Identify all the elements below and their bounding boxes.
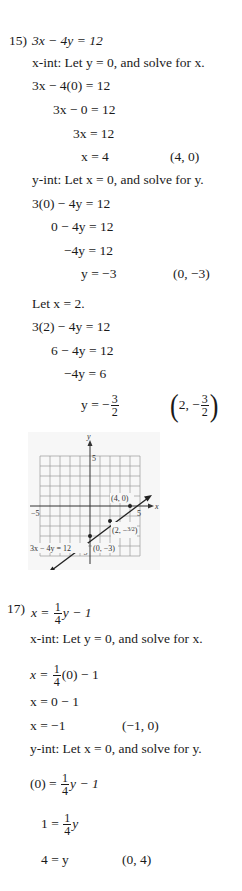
p17-xint-step-3: x = −1 (30, 718, 65, 734)
problem-17-number: 17) (7, 601, 25, 617)
p15-yint-point: (0, −3) (173, 266, 210, 282)
p17-xint-label: x-int: Let y = 0, and solve for x. (30, 631, 203, 647)
label-point-b: (2, −3/2) (112, 526, 138, 535)
problem-15-number: 15) (9, 33, 27, 49)
p17-xint-point: (−1, 0) (122, 718, 159, 734)
fraction: 32 (111, 393, 119, 418)
label-line-equation: 3x − 4y = 12 (30, 544, 71, 553)
p15-extra-result: y = −32 (81, 393, 120, 418)
fraction: 14 (61, 772, 69, 797)
p15-yint-step-4: y = −3 (81, 266, 116, 282)
p15-extra-step-3: −4y = 6 (64, 366, 106, 382)
p17-yint-step-2: 1 = 14y (41, 812, 78, 837)
p15-extra-point: (2, −32) (170, 393, 218, 418)
y-axis-label: y (86, 432, 91, 441)
p17-xint-step-2: x = 0 − 1 (30, 694, 79, 710)
p15-xint-step-3: 3x = 12 (73, 126, 114, 142)
fraction: 14 (53, 663, 61, 688)
problem-15-equation: 3x − 4y = 12 (32, 33, 103, 49)
p15-yint-step-1: 3(0) − 4y = 12 (32, 196, 110, 212)
fraction: 14 (63, 812, 71, 837)
tick-x-right: 5 (137, 509, 141, 518)
label-point-c: (0, −3) (93, 544, 115, 553)
p15-yint-step-2: 0 − 4y = 12 (51, 219, 113, 235)
x-axis-arrow-icon (148, 504, 154, 509)
fraction: 32 (201, 393, 209, 418)
p15-xint-step-4: x = 4 (81, 149, 109, 165)
p15-extra-step-2: 6 − 4y = 12 (51, 343, 113, 359)
p17-xint-step-1: x = 14(0) − 1 (30, 663, 99, 688)
line-graph: x y 5 −5 −5 5 (4, 0) (2, −3/2) 3x − 4y =… (28, 432, 160, 570)
label-point-a: (4, 0) (111, 494, 129, 503)
p17-yint-point: (0, 4) (122, 852, 151, 868)
tick-x-left: −5 (31, 509, 40, 518)
p17-yint-step-1: (0) = 14y − 1 (30, 772, 99, 797)
point-4-0 (128, 504, 132, 508)
p15-xint-step-2: 3x − 0 = 12 (53, 102, 115, 118)
p15-yint-label: y-int: Let x = 0, and solve for y. (32, 172, 204, 188)
p15-xint-point: (4, 0) (170, 149, 199, 165)
p15-yint-step-3: −4y = 12 (64, 243, 113, 259)
x-axis-label: x (154, 502, 159, 511)
p17-yint-step-3: 4 = y (41, 852, 69, 868)
cropped-previous-line (0, 0, 242, 3)
p15-extra-label: Let x = 2. (32, 296, 85, 312)
tick-y-top: 5 (92, 454, 96, 463)
fraction: 14 (54, 601, 62, 626)
p15-extra-step-1: 3(2) − 4y = 12 (32, 319, 110, 335)
problem-17-equation: x = 14y − 1 (31, 601, 91, 626)
p17-yint-label: y-int: Let x = 0, and solve for y. (30, 741, 202, 757)
p15-xint-step-1: 3x − 4(0) = 12 (32, 78, 110, 94)
point-0-neg3 (88, 534, 92, 538)
graph-svg: x y 5 −5 −5 5 (4, 0) (2, −3/2) 3x − 4y =… (28, 432, 160, 570)
p15-xint-label: x-int: Let y = 0, and solve for x. (32, 55, 205, 71)
